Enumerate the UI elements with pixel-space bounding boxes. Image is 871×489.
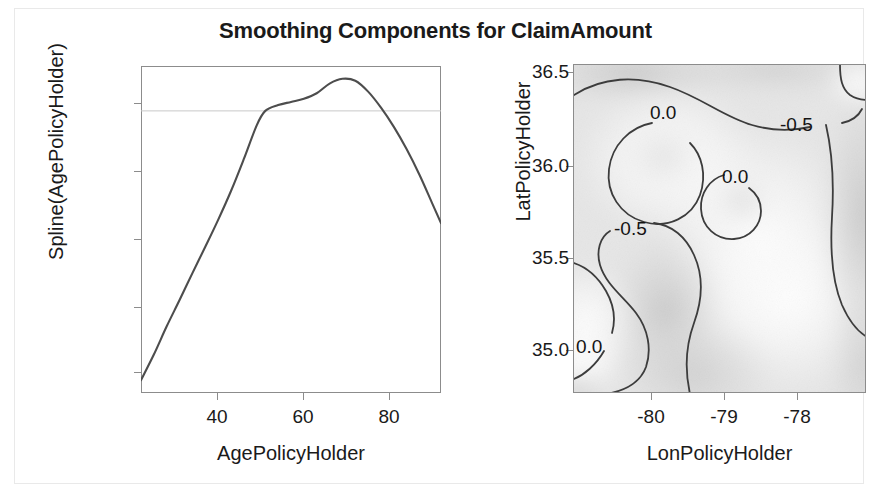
contour-xtick-mark bbox=[797, 393, 798, 400]
contour-plot-area: 0.0 -0.5 0.0 -0.5 0.0 bbox=[574, 65, 866, 393]
contour-xaxis-title: LonPolicyHolder bbox=[573, 442, 866, 465]
contour-ytick-label: 36.5 bbox=[532, 61, 569, 83]
contour-label-4: 0.0 bbox=[576, 336, 602, 357]
contour-plot-frame: 0.0 -0.5 0.0 -0.5 0.0 bbox=[573, 64, 866, 393]
figure-container: Smoothing Components for ClaimAmount 0.0… bbox=[0, 0, 871, 489]
contour-label-0: 0.0 bbox=[650, 102, 676, 123]
contour-yaxis-title: LatPolicyHolder bbox=[512, 12, 535, 292]
contour-panel: 0.0 -0.5 0.0 -0.5 0.0 36.5 36.0 35.5 35.… bbox=[0, 0, 871, 489]
contour-ytick-label: 35.5 bbox=[532, 247, 569, 269]
contour-xtick-mark bbox=[724, 393, 725, 400]
contour-label-2: 0.0 bbox=[722, 166, 748, 187]
contour-label-1: -0.5 bbox=[780, 114, 813, 135]
contour-xtick-label: -78 bbox=[772, 406, 822, 428]
contour-xtick-label: -80 bbox=[626, 406, 676, 428]
contour-xtick-label: -79 bbox=[699, 406, 749, 428]
contour-ytick-label: 35.0 bbox=[532, 339, 569, 361]
contour-label-3: -0.5 bbox=[614, 218, 647, 239]
contour-ytick-label: 36.0 bbox=[532, 155, 569, 177]
contour-xtick-mark bbox=[651, 393, 652, 400]
